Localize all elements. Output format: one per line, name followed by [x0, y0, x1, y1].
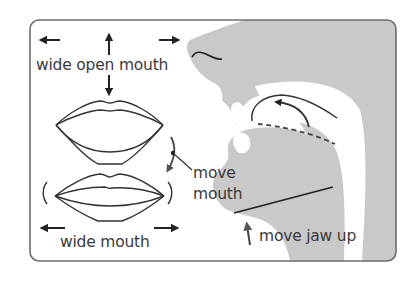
- pointer-line: [173, 153, 192, 170]
- label-move-mouth-line1: move: [193, 166, 236, 182]
- label-move-mouth-line2: mouth: [193, 187, 242, 203]
- label-move-jaw-up: move jaw up: [259, 229, 356, 245]
- label-wide-open-mouth: wide open mouth: [36, 58, 168, 74]
- mouth-movement-diagram: wide open mouth move mouth wide mouth mo…: [0, 0, 416, 283]
- lips-wide: [43, 174, 172, 221]
- label-wide-mouth: wide mouth: [60, 235, 150, 251]
- jaw-up-arrow-icon: [247, 225, 250, 245]
- head-silhouette: [187, 20, 396, 261]
- lips-wide-open: [56, 101, 163, 164]
